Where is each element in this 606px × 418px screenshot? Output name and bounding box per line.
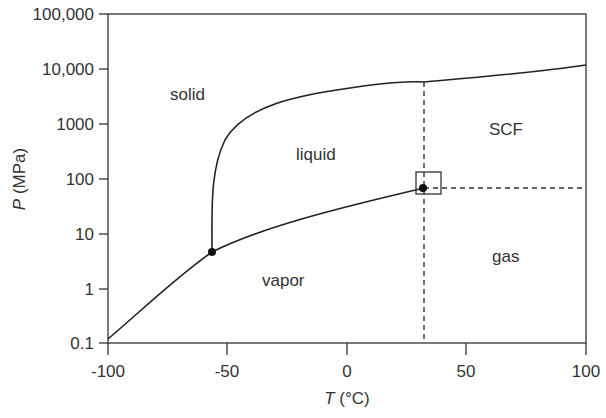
y-axis-labels: 100,000 10,000 1000 100 10 1 0.1	[33, 5, 94, 353]
critical-point-box	[416, 172, 441, 194]
y-axis-title-unit: (MPa)	[10, 148, 29, 199]
x-axis-title: T (°C)	[324, 389, 370, 408]
x-tick-label: -100	[91, 362, 125, 381]
region-label-solid: solid	[170, 85, 205, 104]
x-axis-ticks	[108, 343, 586, 355]
y-tick-label: 10,000	[42, 60, 94, 79]
x-tick-label: -50	[215, 362, 240, 381]
y-axis-title-var: P	[10, 198, 29, 210]
phase-diagram-chart: 100,000 10,000 1000 100 10 1 0.1 -100 -5…	[0, 0, 606, 418]
melting-curve	[212, 65, 586, 252]
x-tick-label: 0	[342, 362, 351, 381]
y-tick-label: 0.1	[70, 334, 94, 353]
y-tick-label: 100,000	[33, 5, 94, 24]
region-label-liquid: liquid	[296, 145, 336, 164]
critical-point-marker	[419, 184, 427, 192]
region-label-scf: SCF	[489, 120, 523, 139]
y-axis-title: P (MPa)	[10, 148, 29, 210]
region-label-gas: gas	[492, 247, 519, 266]
triple-point-marker	[208, 248, 216, 256]
y-tick-label: 1	[85, 280, 94, 299]
y-tick-label: 100	[66, 170, 94, 189]
vaporization-curve	[108, 188, 424, 339]
x-axis-labels: -100 -50 0 50 100	[91, 362, 600, 381]
y-tick-label: 1000	[56, 115, 94, 134]
x-tick-label: 100	[572, 362, 600, 381]
region-label-vapor: vapor	[262, 271, 305, 290]
plot-frame	[108, 14, 586, 343]
x-tick-label: 50	[457, 362, 476, 381]
x-axis-title-unit: (°C)	[335, 389, 370, 408]
y-tick-label: 10	[75, 225, 94, 244]
y-axis-ticks	[99, 14, 108, 343]
